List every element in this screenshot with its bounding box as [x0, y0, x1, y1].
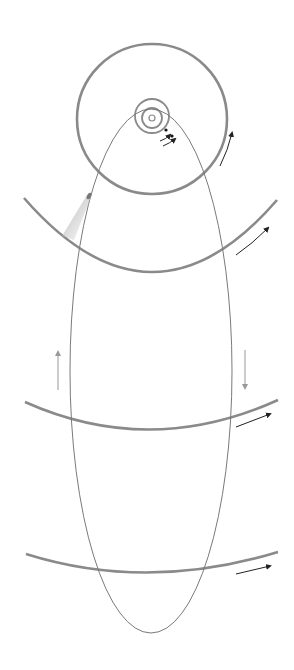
comet-orbit-diagram: Elliptical comet orbit crossing concentr… — [0, 0, 294, 670]
comet-orbit-ellipse — [70, 109, 232, 633]
outer-planet-orbits — [24, 198, 278, 573]
comet-tail — [62, 195, 91, 240]
arc1-direction-arrow-icon — [236, 228, 268, 255]
inner-orbit-direction-1-arrow-icon — [160, 135, 170, 141]
sun-icon — [149, 115, 155, 121]
outer-orbit-arc-3 — [26, 552, 278, 573]
outer-orbit-arc-1 — [24, 198, 277, 272]
arc2-direction-arrow-icon — [236, 414, 270, 427]
planet-dot-1 — [164, 128, 167, 131]
sun-circle — [149, 115, 155, 121]
comet-icon — [62, 192, 92, 240]
inner-orbit-direction-2-arrow-icon — [163, 139, 175, 146]
comet-direction-arrows — [58, 350, 245, 390]
diagram-canvas — [0, 0, 294, 670]
comet-orbit — [70, 109, 232, 633]
orbit-direction-arrows — [160, 133, 270, 574]
arc3-direction-arrow-icon — [236, 566, 270, 574]
planet-dot-2 — [170, 134, 173, 137]
